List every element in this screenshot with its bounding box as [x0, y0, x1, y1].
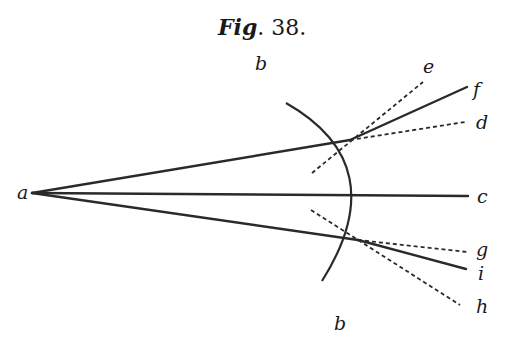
label-i: i — [478, 262, 484, 284]
label-g: g — [476, 238, 488, 260]
ray-upper-incident — [32, 140, 350, 193]
label-d: d — [476, 111, 488, 133]
label-b-bottom: b — [334, 312, 346, 334]
label-a: a — [17, 181, 28, 203]
refraction-diagram: Fig. 38. a b b c d e f g i h — [0, 0, 514, 357]
label-h: h — [476, 295, 488, 317]
ray-refracted-i — [358, 240, 466, 269]
label-e: e — [423, 55, 434, 77]
ray-dashed-g — [358, 240, 467, 252]
figure-title: Fig. 38. — [217, 14, 306, 40]
label-b-top: b — [255, 52, 267, 74]
ray-dashed-e — [312, 82, 423, 173]
ray-lower-incident — [32, 193, 358, 240]
label-f: f — [471, 78, 483, 100]
ray-dashed-h — [311, 210, 460, 305]
label-c: c — [477, 185, 488, 207]
ray-axis-ac — [32, 193, 468, 196]
ray-refracted-f — [350, 87, 467, 140]
refracting-surface-arc — [286, 103, 351, 281]
